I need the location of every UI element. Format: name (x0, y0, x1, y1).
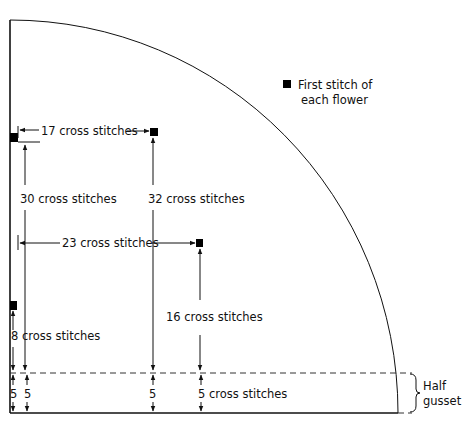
legend-line2: each flower (301, 93, 368, 107)
flower-stitch-marker-2 (150, 128, 158, 136)
gusset-label-line2: gusset (423, 394, 462, 408)
dimension-17-label: 17 cross stitches (41, 124, 138, 138)
flower-stitch-marker-3 (196, 239, 203, 247)
quarter-circle-pattern-diagram: Half gusset First stitch of each flower … (0, 0, 462, 425)
gusset-5-label-3: 5 (149, 387, 156, 401)
gusset-brace-icon (410, 374, 420, 412)
gusset-5-label-1: 5 (10, 387, 17, 401)
legend-line1: First stitch of (298, 78, 373, 92)
dimension-32-label: 32 cross stitches (148, 192, 245, 206)
flower-stitch-marker-1 (10, 133, 18, 142)
dimension-8-label: 8 cross stitches (11, 329, 100, 343)
legend-square-icon (283, 80, 291, 88)
dimension-16-label: 16 cross stitches (166, 310, 263, 324)
gusset-5-label-4: 5 cross stitches (198, 387, 287, 401)
dimension-30-label: 30 cross stitches (20, 192, 117, 206)
dimension-23-label: 23 cross stitches (62, 236, 159, 250)
flower-stitch-marker-4 (10, 301, 17, 310)
gusset-5-label-2: 5 (24, 387, 31, 401)
gusset-label-line1: Half (423, 379, 447, 393)
